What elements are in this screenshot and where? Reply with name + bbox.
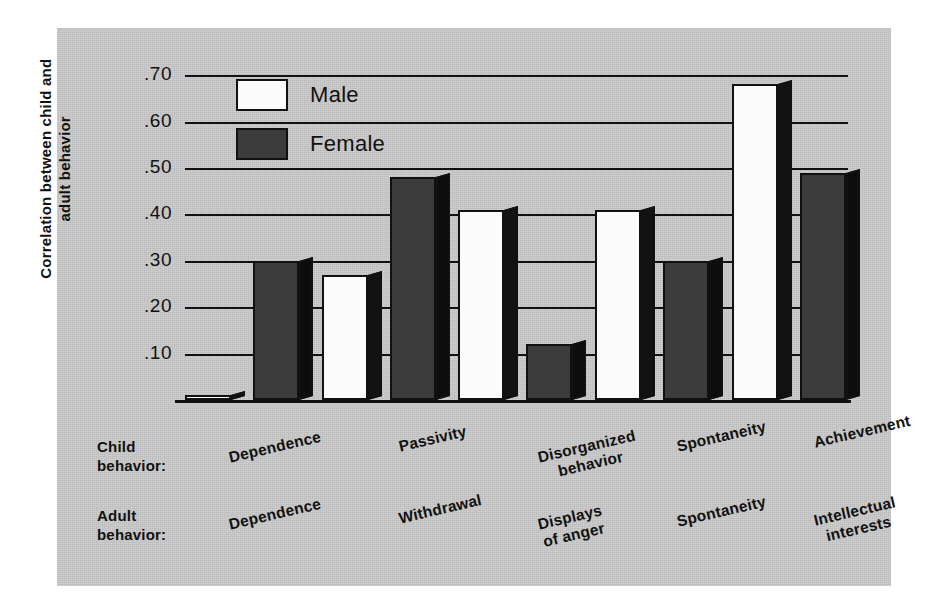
category-label-line1: Spontaneity [675, 418, 768, 457]
y-axis-tick-text: .60 [110, 110, 172, 132]
y-axis-tick-text: .10 [110, 342, 172, 364]
adult-category-label-4: Intellectualinterests [812, 493, 901, 546]
bar-face [322, 275, 368, 400]
y-axis-tick-text: .50 [110, 156, 172, 178]
bar-male-3 [595, 210, 641, 400]
adult-category-label-3: Spontaneity [675, 493, 768, 532]
bar-female-1 [390, 177, 436, 400]
adult-row-label-line1: Adult [97, 507, 166, 526]
child-category-label-2: Disorganizedbehavior [536, 427, 641, 484]
child-row-label-line1: Child [97, 438, 166, 457]
category-label-line1: Dependence [227, 495, 323, 534]
x-axis-baseline [175, 400, 851, 403]
bar-male-2 [458, 210, 504, 400]
legend-label-female: Female [310, 131, 385, 157]
bar-face [253, 261, 299, 400]
bar-female-2 [526, 344, 572, 400]
child-category-label-1: Passivity [397, 422, 468, 456]
category-label-line1: Withdrawal [397, 491, 484, 528]
bar-face [526, 344, 572, 400]
bar-side-shadow [641, 206, 655, 400]
bar-side-shadow [368, 271, 382, 400]
adult-row-label-line2: behavior: [97, 526, 166, 545]
bar-face [800, 173, 846, 400]
bar-face [390, 177, 436, 400]
child-behavior-row-label: Child behavior: [97, 438, 166, 476]
category-label-line1: Dependence [227, 428, 323, 467]
legend-item-female: Female [236, 128, 385, 160]
category-label-line1: Passivity [397, 422, 468, 456]
gridline [185, 75, 848, 77]
bar-face [595, 210, 641, 400]
bar-female-4 [800, 173, 846, 400]
y-axis-tick-text: .30 [110, 249, 172, 271]
y-axis-tick-text: .20 [110, 295, 172, 317]
y-axis-tick-text: .40 [110, 202, 172, 224]
bar-female-0 [253, 261, 299, 400]
bar-side-shadow [299, 257, 313, 400]
bar-side-shadow [231, 391, 245, 400]
child-category-label-0: Dependence [227, 428, 323, 467]
adult-category-label-0: Dependence [227, 495, 323, 534]
adult-category-label-2: Displaysof anger [536, 501, 608, 550]
adult-category-label-1: Withdrawal [397, 491, 484, 528]
plot-area: Correlation between child and adult beha… [0, 0, 933, 608]
legend-label-male: Male [310, 82, 359, 108]
adult-behavior-row-label: Adult behavior: [97, 507, 166, 545]
legend-swatch-male [236, 79, 288, 111]
bar-female-3 [663, 261, 709, 400]
bar-side-shadow [504, 206, 518, 400]
y-axis-title: Correlation between child and adult beha… [37, 49, 75, 289]
bar-male-4 [732, 84, 778, 400]
child-category-label-4: Achievement [812, 412, 912, 452]
legend-swatch-female [236, 128, 288, 160]
bar-face [663, 261, 709, 400]
chart-page: Correlation between child and adult beha… [0, 0, 933, 608]
category-label-line1: Achievement [812, 412, 912, 452]
bar-male-0 [185, 395, 231, 400]
bar-face [185, 395, 231, 400]
child-row-label-line2: behavior: [97, 457, 166, 476]
bar-side-shadow [436, 173, 450, 400]
bar-side-shadow [846, 169, 860, 400]
child-category-label-3: Spontaneity [675, 418, 768, 457]
bar-side-shadow [709, 257, 723, 400]
bar-face [732, 84, 778, 400]
bar-face [458, 210, 504, 400]
bar-male-1 [322, 275, 368, 400]
category-label-line1: Spontaneity [675, 493, 768, 532]
bar-side-shadow [572, 340, 586, 400]
y-axis-tick-text: .70 [110, 63, 172, 85]
bar-side-shadow [778, 80, 792, 400]
legend-item-male: Male [236, 79, 359, 111]
